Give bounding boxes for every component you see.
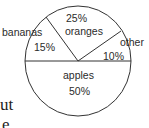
label-other-name: other <box>120 36 144 48</box>
label-oranges-name: oranges <box>65 25 103 37</box>
label-apples-name: apples <box>63 69 94 81</box>
label-bananas-pct: 15% <box>34 41 55 53</box>
label-apples-pct: 50% <box>69 85 90 97</box>
label-oranges-pct: 25% <box>66 12 87 24</box>
label-bananas-name: bananas <box>2 26 42 38</box>
text-fragment: ut <box>0 96 13 113</box>
text-fragment: e <box>2 116 10 128</box>
label-other-pct: 10% <box>103 50 124 62</box>
